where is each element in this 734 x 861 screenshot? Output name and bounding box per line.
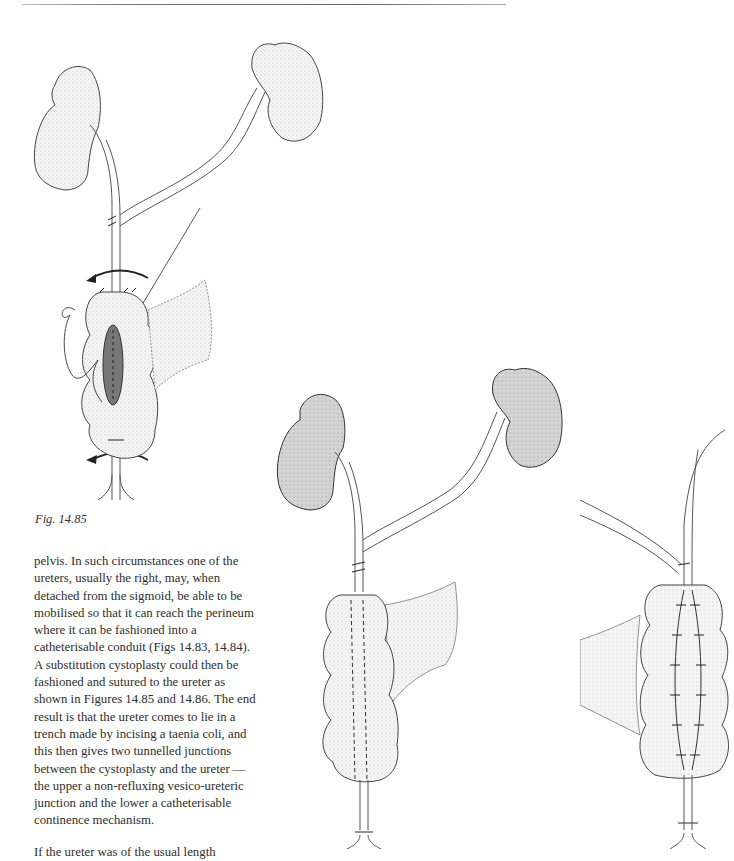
- body-text: pelvis. In such circumstances one of the…: [34, 553, 256, 861]
- paragraph-partial: If the ureter was of the usual length: [34, 844, 256, 861]
- figure-14-86-a-illustration: [265, 360, 565, 849]
- shaded-kidney-cystoplasty-drawing: [265, 360, 565, 849]
- paragraph: pelvis. In such circumstances one of the…: [34, 553, 256, 830]
- figure-caption: Fig. 14.85: [35, 512, 87, 527]
- sutured-cystoplasty-drawing: [580, 425, 734, 849]
- header-rule: [22, 4, 506, 5]
- figure-14-86-b-illustration: [580, 425, 734, 849]
